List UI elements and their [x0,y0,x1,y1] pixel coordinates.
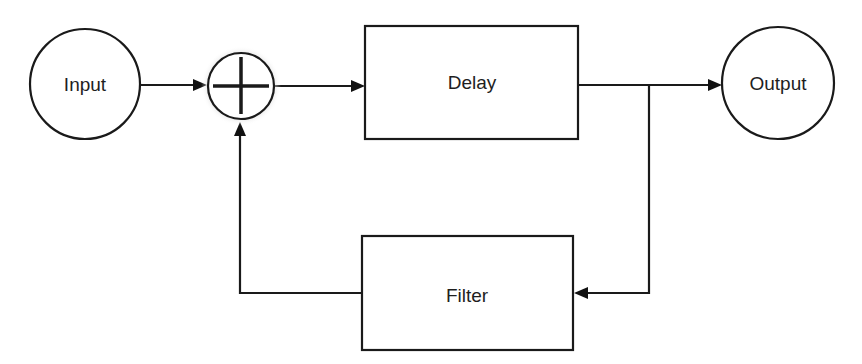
node-filter-label: Filter [446,285,489,306]
node-summing-junction [201,46,281,126]
edge-branch-to-filter [574,85,649,299]
node-output-label: Output [749,73,807,94]
node-filter: Filter [362,236,573,350]
arrowhead-icon [708,79,722,91]
block-diagram: Input Delay Output Filter [0,0,862,364]
node-delay-label: Delay [448,72,497,93]
node-output: Output [722,27,834,139]
node-delay: Delay [365,26,578,139]
node-input: Input [30,29,140,139]
arrowhead-icon [574,287,588,299]
arrowhead-icon [351,80,365,92]
edge-filter-to-sum [234,122,362,293]
edge-input-to-sum [141,79,207,91]
node-input-label: Input [64,74,107,95]
edge-sum-to-delay [275,80,365,92]
